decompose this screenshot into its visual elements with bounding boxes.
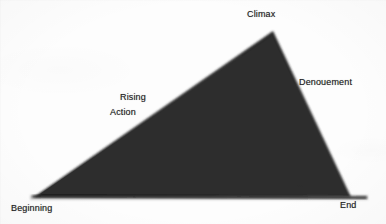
plot-structure-diagram: Climax Denouement Rising Action Beginnin…: [0, 0, 386, 224]
plot-triangle-graphic: [0, 0, 386, 224]
label-denouement: Denouement: [299, 77, 352, 88]
baseline-rule: [33, 197, 366, 198]
label-beginning: Beginning: [11, 203, 52, 214]
label-rising-action-line1: Rising: [120, 92, 146, 103]
label-end: End: [340, 200, 356, 211]
label-climax: Climax: [247, 9, 275, 20]
label-rising-action-line2: Action: [110, 107, 136, 118]
triangle-core: [40, 36, 347, 194]
